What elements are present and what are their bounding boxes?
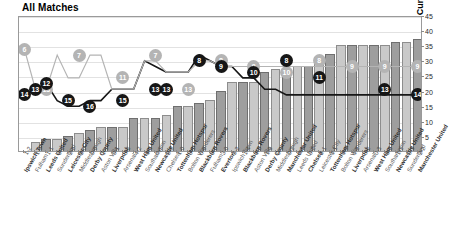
- data-point-label: 11: [116, 71, 129, 84]
- data-point-label: 7: [149, 49, 162, 62]
- data-point-label: 15: [116, 94, 129, 107]
- data-point-label: 13: [378, 83, 391, 96]
- y-axis-tick-label: 30: [425, 58, 433, 65]
- data-point-label: 10: [247, 66, 260, 79]
- data-point-label: 16: [83, 100, 96, 113]
- y-axis-tick-label: 20: [425, 88, 433, 95]
- y-axis-tick-label: 25: [425, 73, 433, 80]
- data-point-label: 9: [378, 60, 391, 73]
- data-point-label: 8: [193, 54, 206, 67]
- data-point-label: 13: [182, 83, 195, 96]
- x-axis: 1-2Ipswich Town1-0Fulham1-1Leeds United0…: [18, 153, 422, 242]
- y-axis-tick-label: 15: [425, 103, 433, 110]
- data-point-label: 11: [313, 71, 326, 84]
- data-point-label: 9: [215, 60, 228, 73]
- y-axis-tick-label: 10: [425, 118, 433, 125]
- data-point-label: 14: [411, 88, 422, 101]
- data-point-label: 8: [313, 54, 326, 67]
- data-point-label: 12: [40, 77, 53, 90]
- y-axis-title: Cumulative Points: [413, 0, 427, 44]
- data-point-label: 8: [280, 54, 293, 67]
- data-point-label: 6: [18, 43, 31, 56]
- y-axis-tick-mark: [421, 107, 424, 108]
- y-axis-tick-mark: [421, 46, 424, 47]
- y-axis-tick-label: 5: [425, 133, 429, 140]
- chart-title: All Matches: [22, 2, 79, 13]
- data-point-label: 15: [62, 94, 75, 107]
- y-axis-tick-mark: [421, 76, 424, 77]
- data-point-label: 7: [73, 49, 86, 62]
- data-point-label: 9: [346, 60, 359, 73]
- y-axis-tick-mark: [421, 122, 424, 123]
- data-point-label: 10: [280, 66, 293, 79]
- y-axis-tick-mark: [421, 137, 424, 138]
- chart-container: All Matches 6137117138910899914131215161…: [0, 0, 449, 242]
- y-axis-tick-mark: [421, 92, 424, 93]
- data-point-label: 13: [160, 83, 173, 96]
- y-axis-tick-mark: [421, 61, 424, 62]
